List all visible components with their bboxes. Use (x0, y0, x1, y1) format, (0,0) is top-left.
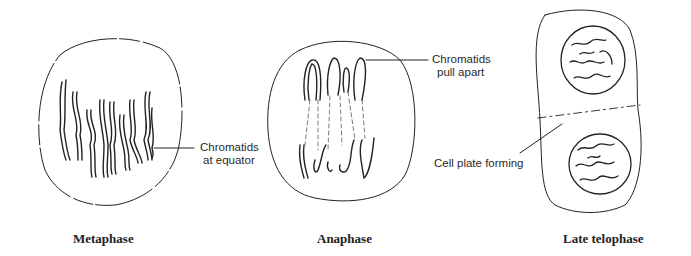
anaphase-annotation: Chromatids pull apart (432, 53, 491, 79)
anaphase-cell-outline (268, 41, 415, 201)
mitosis-diagram (0, 0, 691, 256)
annotation-text: Chromatids (432, 53, 491, 66)
metaphase-chromosomes (60, 80, 153, 177)
anaphase-spindle (305, 92, 365, 150)
anaphase-chromosomes-top (304, 58, 366, 100)
anaphase-chromosomes-bottom (299, 138, 374, 178)
annotation-text: pull apart (432, 66, 491, 79)
annotation-text: Cell plate forming (434, 157, 523, 170)
caption-metaphase: Metaphase (73, 231, 134, 247)
metaphase-annotation: Chromatids at equator (200, 141, 259, 167)
cell-plate (538, 105, 640, 118)
telophase-annotation: Cell plate forming (434, 157, 523, 170)
annotation-text: Chromatids (200, 141, 259, 154)
upper-nucleus (561, 26, 625, 94)
telophase-chromatin (570, 39, 618, 180)
caption-anaphase: Anaphase (317, 231, 372, 247)
caption-late-telophase: Late telophase (563, 231, 644, 247)
annotation-text: at equator (200, 154, 259, 167)
